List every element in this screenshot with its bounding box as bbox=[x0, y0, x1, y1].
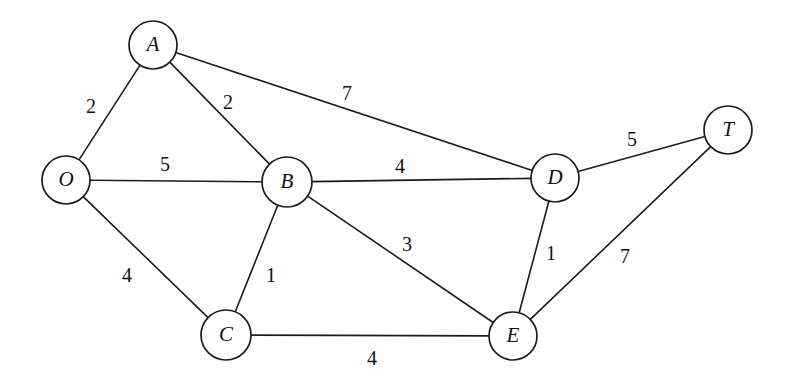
nodes-layer: OABCDET bbox=[42, 21, 752, 360]
node-label-B: B bbox=[281, 169, 294, 193]
graph-node-D: D bbox=[531, 154, 579, 202]
graph-node-E: E bbox=[489, 312, 537, 360]
edge-weight-O-A: 2 bbox=[86, 95, 96, 117]
node-label-A: A bbox=[145, 32, 160, 56]
graph-edge-A-B bbox=[170, 62, 270, 164]
graph-edge-B-E bbox=[308, 196, 494, 322]
edges-layer bbox=[79, 53, 711, 336]
edge-weight-B-C: 1 bbox=[266, 264, 276, 286]
graph-node-T: T bbox=[704, 106, 752, 154]
graph-node-A: A bbox=[129, 21, 177, 69]
edge-weight-E-T: 7 bbox=[620, 245, 630, 267]
graph-canvas: OABCDET 227545413174 bbox=[0, 0, 793, 387]
edge-weight-B-D: 4 bbox=[395, 155, 405, 177]
edge-weight-A-B: 2 bbox=[223, 91, 233, 113]
edge-weight-D-E: 1 bbox=[546, 242, 556, 264]
graph-edge-D-T bbox=[578, 136, 705, 171]
edge-weight-D-T: 5 bbox=[627, 128, 637, 150]
node-label-C: C bbox=[219, 322, 234, 346]
edge-weight-C-E: 4 bbox=[367, 347, 377, 369]
edge-weight-O-B: 5 bbox=[160, 153, 170, 175]
edge-weights-layer: 227545413174 bbox=[86, 82, 637, 369]
graph-node-C: C bbox=[201, 310, 251, 360]
edge-weight-A-D: 7 bbox=[342, 82, 352, 104]
node-label-T: T bbox=[722, 117, 735, 141]
graph-edge-B-C bbox=[235, 205, 277, 312]
graph-edge-C-E bbox=[251, 335, 489, 336]
node-label-O: O bbox=[58, 167, 73, 191]
edge-weight-O-C: 4 bbox=[122, 264, 132, 286]
node-label-D: D bbox=[546, 165, 562, 189]
graph-node-O: O bbox=[42, 156, 90, 204]
graph-edge-O-C bbox=[83, 197, 208, 318]
graph-node-B: B bbox=[262, 157, 312, 207]
edge-weight-B-E: 3 bbox=[402, 233, 412, 255]
graph-edge-O-B bbox=[90, 180, 262, 182]
graph-edge-B-D bbox=[312, 178, 531, 181]
graph-edge-D-E bbox=[519, 201, 549, 313]
node-label-E: E bbox=[506, 323, 520, 347]
graph-figure: OABCDET 227545413174 bbox=[0, 0, 793, 387]
